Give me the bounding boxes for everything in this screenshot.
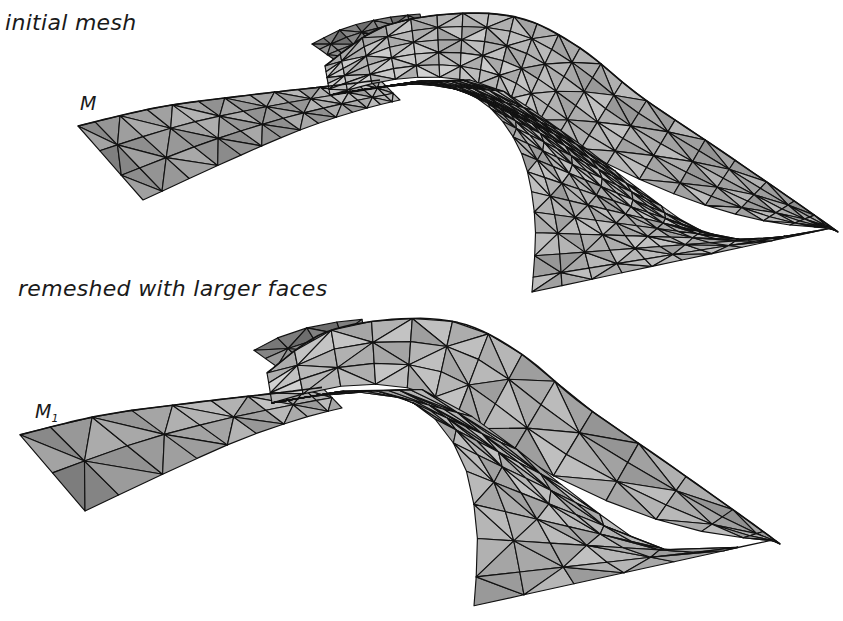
remeshed-surface	[20, 318, 780, 605]
initial-mesh-left-arm-face	[392, 93, 400, 102]
initial-mesh-surface	[78, 13, 838, 292]
mesh-figure	[0, 0, 843, 621]
remeshed-leg-face	[724, 540, 774, 551]
initial-mesh-leg-face	[785, 228, 832, 236]
